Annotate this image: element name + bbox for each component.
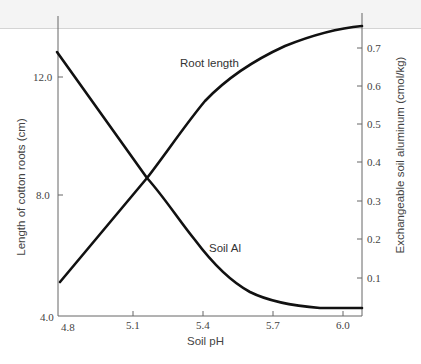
y2-tick-label-0.3: 0.3 bbox=[367, 196, 381, 207]
y-tick-label-12: 12.0 bbox=[33, 72, 52, 83]
y-axis-title: Length of cotton roots (cm) bbox=[16, 118, 28, 255]
soil-al-label: Soil Al bbox=[209, 243, 241, 255]
y2-axis-title: Exchangeable soil aluminum (cmol/kg) bbox=[395, 57, 407, 254]
y2-tick-label-0.4: 0.4 bbox=[367, 157, 381, 168]
y-tick-label-8: 8.0 bbox=[36, 190, 50, 201]
x-tick-label-5.4: 5.4 bbox=[196, 320, 210, 331]
y2-tick-label-0.5: 0.5 bbox=[367, 119, 381, 130]
soil-al-curve bbox=[57, 52, 362, 308]
x-tick-label-5.1: 5.1 bbox=[126, 320, 140, 331]
x-tick-label-4.8: 4.8 bbox=[61, 322, 75, 333]
x-tick-label-5.7: 5.7 bbox=[266, 320, 280, 331]
root-length-label: Root length bbox=[180, 58, 239, 70]
y-tick-label-4: 4.0 bbox=[40, 312, 54, 323]
y2-tick-label-0.7: 0.7 bbox=[367, 43, 381, 54]
x-axis-title: Soil pH bbox=[187, 336, 224, 348]
y2-tick-label-0.6: 0.6 bbox=[367, 81, 381, 92]
y2-tick-label-0.2: 0.2 bbox=[367, 234, 381, 245]
chart-plot bbox=[0, 0, 421, 364]
x-tick-label-6.0: 6.0 bbox=[336, 320, 350, 331]
y2-tick-label-0.1: 0.1 bbox=[367, 273, 381, 284]
